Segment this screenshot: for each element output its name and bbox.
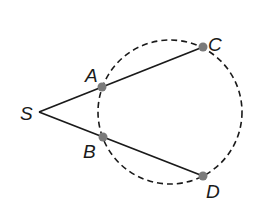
secant-s-d [39, 112, 203, 176]
point-b [99, 133, 108, 142]
label-a: A [84, 65, 98, 86]
label-b: B [83, 141, 96, 162]
secant-diagram: S A B C D [0, 0, 255, 203]
secant-s-c [39, 47, 203, 112]
label-s: S [20, 103, 33, 124]
point-a [98, 83, 107, 92]
label-d: D [206, 181, 220, 202]
point-d [199, 172, 208, 181]
label-c: C [208, 34, 222, 55]
point-c [199, 43, 208, 52]
